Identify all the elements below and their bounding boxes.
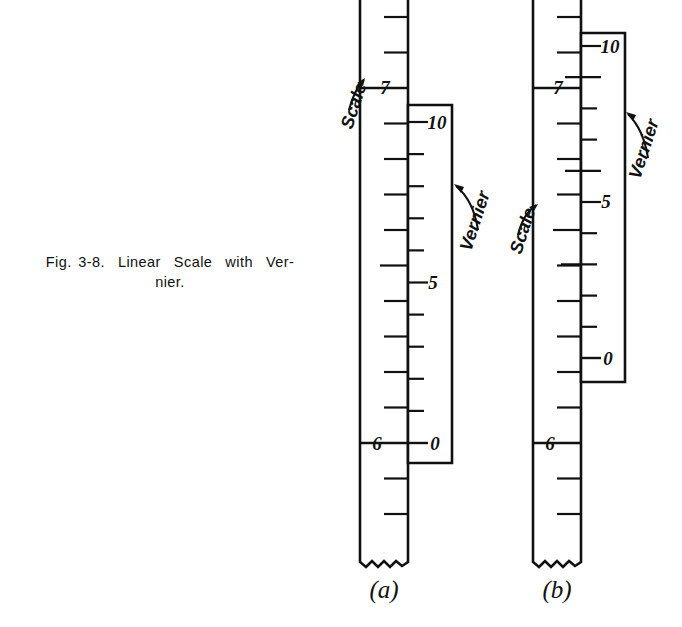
panel-a-vernier-number-0: 0: [430, 433, 440, 454]
vernier-scale-diagram: 7 6 10 5 0: [0, 0, 682, 627]
panel-a-vernier-label: Vernier: [456, 188, 494, 253]
panel-b-vernier-number-10: 10: [601, 36, 621, 57]
panel-a-scale-number-7: 7: [380, 77, 391, 98]
panel-b-vernier-arrowhead-icon: [626, 112, 636, 121]
panel-b-scale-number-6: 6: [545, 433, 555, 454]
figure-root: Fig. 3-8. Linear Scale with Ver- nier.: [0, 0, 682, 627]
panel-b-vernier-annotation: Vernier: [625, 112, 663, 181]
panel-b-vernier-number-5: 5: [601, 191, 611, 212]
panel-b: 7 6 10 5 0: [506, 0, 663, 604]
panel-a-vernier-annotation: Vernier: [454, 184, 494, 253]
panel-a-scale-number-6: 6: [372, 433, 382, 454]
panel-a-vernier-number-5: 5: [428, 272, 438, 293]
panel-b-label: (b): [542, 576, 571, 604]
panel-a: 7 6 10 5 0: [337, 0, 494, 604]
panel-a-label: (a): [369, 576, 398, 604]
panel-b-vernier-number-0: 0: [603, 348, 613, 369]
panel-b-vernier-label: Vernier: [625, 116, 663, 181]
panel-a-vernier-number-10: 10: [428, 112, 448, 133]
panel-b-scale-number-7: 7: [553, 77, 564, 98]
